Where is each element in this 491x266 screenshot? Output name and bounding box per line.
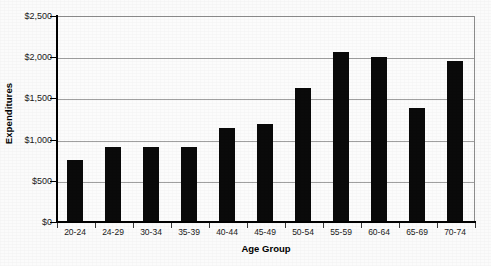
y-axis-tick-mark (50, 222, 57, 223)
bar (67, 160, 83, 222)
bar (181, 147, 197, 222)
x-axis-line (56, 221, 476, 223)
x-axis-tick-label: 70-74 (432, 228, 478, 237)
bars-layer (56, 16, 475, 222)
y-axis-tick-label: $0 (12, 218, 52, 227)
bar (257, 124, 273, 222)
bar-chart-expenditures-by-age-group: Expenditures $0$500$1,000$1,500$2,000$2,… (0, 0, 491, 266)
bar (105, 147, 121, 222)
y-axis-tick-mark (50, 16, 57, 17)
y-axis-tick-label: $1,500 (12, 94, 52, 103)
bar (447, 61, 463, 223)
y-axis-tick-label: $2,500 (12, 12, 52, 21)
bar (409, 108, 425, 222)
y-axis-tick-mark (50, 57, 57, 58)
y-axis-tick-label: $2,000 (12, 53, 52, 62)
y-axis-line (56, 15, 58, 223)
y-axis-tick-mark (50, 98, 57, 99)
bar (219, 128, 235, 222)
y-axis-tick-mark (50, 140, 57, 141)
bar (371, 57, 387, 222)
x-axis-title: Age Group (56, 243, 476, 254)
y-axis-tick-label: $500 (12, 176, 52, 185)
y-axis-tick-labels: $0$500$1,000$1,500$2,000$2,500 (8, 0, 52, 266)
x-axis-tick-mark (475, 223, 476, 228)
bar (295, 88, 311, 222)
y-axis-tick-label: $1,000 (12, 135, 52, 144)
y-axis-tick-mark (50, 181, 57, 182)
bar (333, 52, 349, 222)
bar (143, 147, 159, 222)
